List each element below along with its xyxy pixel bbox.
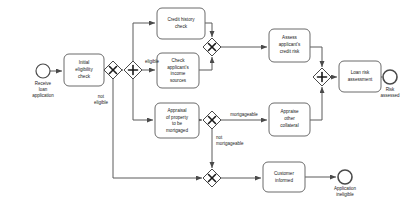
task-check-applicants-income-sources[interactable]: Check applicant's income sources — [157, 53, 199, 88]
gateway-ineligible-merge[interactable] — [203, 169, 221, 187]
gateway-credit-checks-merge[interactable] — [203, 38, 221, 56]
flow-label-not-eligible-line-0: not — [98, 94, 105, 99]
task-appraise-collateral-line-1: other — [284, 116, 295, 121]
flow-label-not-mortgageable-line-0: not — [216, 135, 223, 140]
task-appraisal-of-property[interactable]: Appraisal of property to be mortgaged — [155, 103, 199, 138]
end-event-risk-assessed-circle[interactable] — [383, 70, 397, 84]
task-initial-eligibility-check-line-2: check — [78, 74, 91, 79]
task-credit-history-check-line-0: Credit history — [167, 17, 195, 22]
task-check-income-line-2: income — [171, 71, 186, 76]
task-initial-eligibility-check-line-1: eligibility — [75, 67, 93, 72]
flow-income-sources-to-merge — [199, 57, 212, 70]
task-loan-risk-assessment[interactable]: Loan risk assessment — [339, 61, 381, 92]
task-customer-informed-line-0: Customer — [274, 171, 294, 176]
start-event-receive-loan-application[interactable]: Receive loan application — [32, 64, 54, 98]
task-appraisal-line-2: to be — [172, 121, 183, 126]
task-appraisal-line-1: of property — [166, 115, 189, 120]
gateway-mortgageable-decision[interactable] — [203, 111, 221, 129]
task-assess-credit-risk-line-2: credit risk — [280, 49, 300, 54]
task-customer-informed-line-1: informed — [275, 178, 293, 183]
flow-split-to-appraisal — [133, 79, 153, 120]
gateway-parallel-split[interactable] — [124, 61, 142, 79]
task-credit-history-check-line-1: check — [175, 24, 188, 29]
task-loan-risk-line-1: assessment — [348, 77, 373, 82]
end-event-risk-assessed-label-line-0: Risk — [386, 87, 395, 92]
task-check-income-line-3: sources — [170, 78, 187, 83]
task-appraisal-line-0: Appraisal — [167, 108, 186, 113]
flow-split-to-credit-history — [133, 23, 155, 61]
gateway-eligibility-decision[interactable] — [104, 61, 122, 79]
end-event-application-ineligible-circle[interactable] — [338, 170, 352, 184]
task-appraisal-line-3: mortgaged — [166, 128, 188, 133]
tasks-layer: Initial eligibility check Credit history… — [64, 8, 381, 192]
end-event-application-ineligible-label-line-1: ineligible — [336, 192, 354, 197]
task-assess-credit-risk-line-0: Assess — [282, 35, 298, 40]
bpmn-diagram-canvas: Initial eligibility check Credit history… — [0, 0, 415, 201]
task-check-income-line-0: Check — [171, 58, 185, 63]
flow-label-not-mortgageable-line-1: mortgageable — [216, 141, 244, 146]
task-appraise-other-collateral[interactable]: Appraise other collateral — [269, 103, 310, 136]
flow-credit-risk-to-join — [310, 47, 322, 67]
task-check-income-line-1: applicant's — [167, 65, 189, 70]
end-event-risk-assessed-label-line-1: assessed — [380, 93, 400, 98]
start-event-circle[interactable] — [36, 64, 50, 78]
task-appraise-collateral-line-2: collateral — [280, 123, 298, 128]
end-event-risk-assessed[interactable]: Risk assessed — [380, 70, 400, 98]
end-event-application-ineligible-label-line-0: Application — [334, 186, 357, 191]
flow-label-mortgageable: mortgageable — [230, 112, 258, 117]
start-event-label-line-1: loan — [39, 87, 48, 92]
end-event-application-ineligible[interactable]: Application ineligible — [334, 170, 357, 197]
task-assess-credit-risk-line-1: applicant's — [279, 42, 301, 47]
flow-label-eligible: eligible — [145, 59, 160, 64]
task-initial-eligibility-check-line-0: Initial — [79, 60, 90, 65]
start-event-label-line-0: Receive — [35, 81, 52, 86]
task-customer-informed[interactable]: Customer informed — [263, 162, 305, 192]
task-loan-risk-line-0: Loan risk — [351, 70, 370, 75]
flow-label-not-eligible-line-1: eligible — [94, 100, 109, 105]
flow-credit-history-to-merge — [205, 23, 212, 37]
task-credit-history-check[interactable]: Credit history check — [157, 8, 205, 39]
bpmn-diagram-svg: Initial eligibility check Credit history… — [0, 0, 415, 201]
flow-collateral-to-join — [310, 87, 322, 120]
gateway-parallel-join[interactable] — [313, 68, 331, 86]
task-assess-applicants-credit-risk[interactable]: Assess applicant's credit risk — [269, 29, 310, 62]
task-appraise-collateral-line-0: Appraise — [280, 109, 299, 114]
task-initial-eligibility-check[interactable]: Initial eligibility check — [64, 54, 104, 86]
start-event-label-line-2: application — [32, 93, 54, 98]
